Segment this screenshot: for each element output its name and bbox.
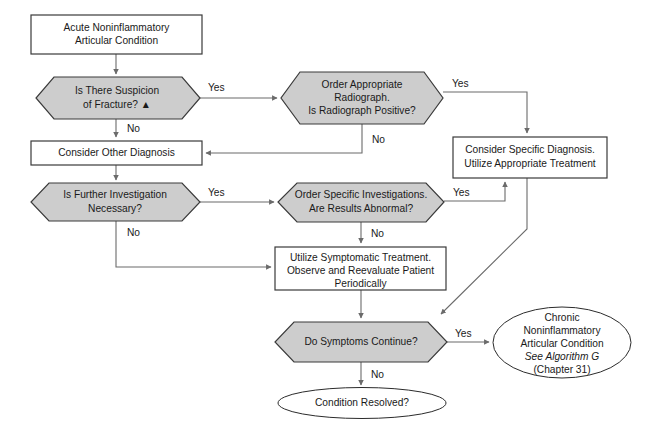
further-investigation-line-1: Is Further Investigation — [63, 189, 167, 200]
node-consider-other-diagnosis: Consider Other Diagnosis — [31, 141, 202, 165]
symptomatic-treatment-line-2: Observe and Reevaluate Patient — [287, 265, 434, 276]
edge-label-radiograph-no: No — [372, 134, 385, 145]
node-order-specific-investigations: Order Specific Investigations. Are Resul… — [278, 183, 444, 222]
condition-resolved-label: Condition Resolved? — [315, 397, 409, 408]
edge-label-fracture-no: No — [127, 123, 140, 134]
node-chronic-condition: Chronic Noninflammatory Articular Condit… — [493, 307, 631, 378]
node-order-radiograph: Order Appropriate Radiograph. Is Radiogr… — [281, 72, 443, 124]
flowchart-canvas: Yes No Yes No Yes No Yes No Yes No Acute… — [0, 0, 648, 438]
suspicion-fracture-line-2: of Fracture? ▲ — [83, 99, 151, 110]
further-investigation-line-2: Necessary? — [88, 203, 142, 214]
node-symptomatic-treatment: Utilize Symptomatic Treatment. Observe a… — [275, 247, 446, 290]
start-line-1: Acute Noninflammatory — [64, 22, 171, 33]
order-specific-investigations-line-1: Order Specific Investigations. — [295, 189, 428, 200]
connector-radiograph-yes-to-specific-diagnosis — [443, 92, 527, 133]
order-radiograph-line-2: Radiograph. — [334, 92, 390, 103]
node-consider-specific-diagnosis: Consider Specific Diagnosis. Utilize App… — [453, 137, 607, 178]
edge-label-results-no: No — [371, 228, 384, 239]
symptomatic-treatment-line-1: Utilize Symptomatic Treatment. — [290, 252, 431, 263]
node-suspicion-fracture: Is There Suspicion of Fracture? ▲ — [36, 77, 200, 119]
edge-label-symptoms-no: No — [371, 369, 384, 380]
node-further-investigation: Is Further Investigation Necessary? — [31, 183, 200, 221]
consider-specific-diagnosis-line-1: Consider Specific Diagnosis. — [465, 144, 595, 155]
chronic-condition-line-1: Chronic — [544, 312, 579, 323]
node-start: Acute Noninflammatory Articular Conditio… — [31, 15, 202, 54]
edge-label-radiograph-yes: Yes — [452, 78, 469, 89]
order-radiograph-line-3: Is Radiograph Positive? — [308, 105, 416, 116]
order-radiograph-line-1: Order Appropriate — [322, 79, 403, 90]
consider-other-diagnosis-label: Consider Other Diagnosis — [58, 147, 175, 158]
suspicion-fracture-line-1: Is There Suspicion — [75, 85, 159, 96]
symptomatic-treatment-line-3: Periodically — [334, 278, 387, 289]
chronic-condition-line-2: Noninflammatory — [524, 325, 602, 336]
connector-specific-diagnosis-to-symptoms — [441, 178, 527, 314]
connector-radiograph-no-to-consider-other — [206, 124, 362, 153]
edge-label-investigation-no: No — [127, 227, 140, 238]
chronic-condition-line-3: Articular Condition — [520, 338, 603, 349]
consider-specific-diagnosis-line-2: Utilize Appropriate Treatment — [464, 158, 596, 169]
edge-label-fracture-yes: Yes — [208, 82, 225, 93]
order-specific-investigations-line-2: Are Results Abnormal? — [309, 203, 414, 214]
flowchart-svg: Yes No Yes No Yes No Yes No Yes No Acute… — [0, 0, 648, 438]
edge-label-symptoms-yes: Yes — [455, 328, 472, 339]
node-symptoms-continue: Do Symptoms Continue? — [275, 322, 447, 362]
node-condition-resolved: Condition Resolved? — [278, 388, 446, 419]
chronic-condition-line-4: See Algorithm G — [525, 351, 599, 362]
start-line-2: Articular Condition — [75, 35, 158, 46]
symptoms-continue-label: Do Symptoms Continue? — [304, 336, 418, 347]
chronic-condition-line-5: (Chapter 31) — [533, 364, 590, 375]
edge-label-results-yes: Yes — [453, 187, 470, 198]
edge-label-investigation-yes: Yes — [208, 187, 225, 198]
